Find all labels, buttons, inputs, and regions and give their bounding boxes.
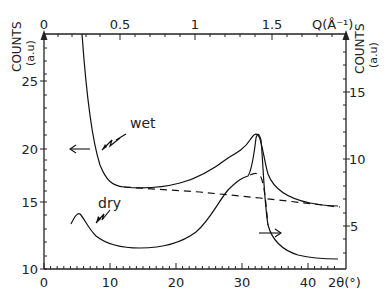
y-left-tick-20: 20 <box>21 142 38 157</box>
top-tick-labels: 0 0.5 1 1.5 <box>40 17 282 32</box>
q-tick-0: 0 <box>40 17 48 32</box>
axes-frame <box>44 34 346 269</box>
curves <box>71 34 338 259</box>
svg-text:(a.u): (a.u) <box>367 42 380 68</box>
bottom-tick-labels: 0 10 20 30 40 <box>40 275 316 290</box>
y-right-tick-5: 5 <box>350 219 358 234</box>
y-left-tick-25: 25 <box>21 74 38 89</box>
x-tick-20: 20 <box>168 275 185 290</box>
x-tick-30: 30 <box>234 275 251 290</box>
dry-label: dry <box>98 195 121 211</box>
x-tick-10: 10 <box>102 275 119 290</box>
right-axis-title: COUNTS (a.u) <box>353 23 380 74</box>
diffraction-chart: 0 10 20 30 40 2θ(°) 0 0.5 1 1.5 Q(Å⁻¹) 2… <box>0 0 386 302</box>
wet-curve <box>82 34 338 206</box>
y-right-tick-15: 15 <box>349 85 366 100</box>
svg-text:COUNTS: COUNTS <box>353 23 367 74</box>
left-axis-title: COUNTS (a.u) <box>10 21 37 72</box>
bottom-ticks <box>44 263 334 269</box>
y-left-tick-10: 10 <box>21 262 38 277</box>
svg-text:(a.u): (a.u) <box>24 40 37 66</box>
q-axis-title: Q(Å⁻¹) <box>312 17 353 32</box>
wet-label: wet <box>130 115 156 131</box>
dry-pointer-head-icon <box>96 216 101 223</box>
x-tick-0: 0 <box>40 275 48 290</box>
q-tick-05: 0.5 <box>110 17 131 32</box>
q-tick-1: 1 <box>191 17 199 32</box>
wet-pointer-head-icon <box>102 144 107 150</box>
dashed-curves <box>124 173 340 225</box>
x-tick-40: 40 <box>300 275 317 290</box>
left-tick-labels: 25 20 15 10 <box>21 74 38 277</box>
y-right-tick-10: 10 <box>349 152 366 167</box>
top-ticks <box>44 34 332 40</box>
right-tick-labels: 15 10 5 <box>349 85 366 234</box>
y-left-tick-15: 15 <box>21 195 38 210</box>
svg-text:COUNTS: COUNTS <box>10 21 24 72</box>
q-tick-15: 1.5 <box>262 17 283 32</box>
x-axis-title: 2θ(°) <box>328 275 361 290</box>
wet-baseline-dashed <box>124 187 340 207</box>
left-axis-indicator-arrow-icon <box>70 145 90 153</box>
